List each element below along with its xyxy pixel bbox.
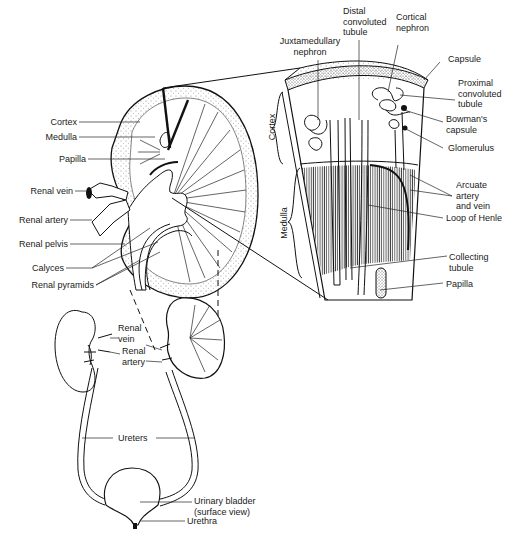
label-loop-of-henle: Loop of Henle bbox=[446, 213, 502, 224]
label-renal-vein-small: Renal vein bbox=[118, 323, 142, 344]
label-distal-line1: Distal bbox=[343, 6, 387, 17]
label-cortical-line2: nephron bbox=[396, 23, 429, 34]
label-renal-vein: Renal vein bbox=[0, 186, 73, 197]
label-urethra: Urethra bbox=[187, 516, 217, 527]
label-renal-artery: Renal artery bbox=[0, 215, 68, 226]
label-bladder-line1: Urinary bladder bbox=[194, 496, 256, 507]
label-collecting-tubule: Collecting tubule bbox=[449, 252, 489, 273]
label-papilla-wedge: Papilla bbox=[446, 279, 473, 290]
label-arcuate-line3: and vein bbox=[456, 201, 490, 212]
nephron-wedge bbox=[272, 61, 428, 300]
label-bowmans-line1: Bowman's bbox=[446, 114, 487, 125]
label-juxtamedullary-line1: Juxtamedullary bbox=[268, 36, 352, 47]
label-medulla-vertical: Medulla bbox=[279, 201, 289, 245]
label-glomerulus: Glomerulus bbox=[448, 143, 494, 154]
label-renal-artery-small: Renal artery bbox=[122, 346, 146, 367]
label-collecting-line2: tubule bbox=[449, 263, 489, 274]
label-renal-artery-line1: Renal bbox=[122, 346, 146, 357]
label-ureters: Ureters bbox=[118, 433, 148, 444]
label-calyces: Calyces bbox=[0, 263, 64, 274]
label-distal-line3: tubule bbox=[343, 27, 387, 38]
label-arcuate-line1: Arcuate bbox=[456, 180, 490, 191]
label-distal-convoluted-tubule: Distal convoluted tubule bbox=[343, 6, 387, 38]
label-proximal-line2: convoluted bbox=[458, 89, 502, 100]
kidney-cross-section bbox=[86, 86, 258, 298]
label-juxtamedullary-line2: nephron bbox=[268, 47, 352, 58]
label-renal-artery-line2: artery bbox=[122, 357, 146, 368]
label-papilla: Papilla bbox=[20, 154, 86, 165]
label-urinary-bladder: Urinary bladder (surface view) bbox=[194, 496, 256, 517]
label-renal-vein-line1: Renal bbox=[118, 323, 142, 334]
label-juxtamedullary-nephron: Juxtamedullary nephron bbox=[268, 36, 352, 57]
label-renal-vein-line2: vein bbox=[118, 334, 142, 345]
label-arcuate-line2: artery bbox=[456, 191, 490, 202]
label-arcuate-artery-vein: Arcuate artery and vein bbox=[456, 180, 490, 212]
label-distal-line2: convoluted bbox=[343, 17, 387, 28]
label-proximal-line1: Proximal bbox=[458, 78, 502, 89]
label-renal-pyramids: Renal pyramids bbox=[0, 280, 94, 291]
label-bowmans-capsule: Bowman's capsule bbox=[446, 114, 487, 135]
label-bowmans-line2: capsule bbox=[446, 125, 487, 136]
label-proximal-line3: tubule bbox=[458, 99, 502, 110]
label-cortex-vertical: Cortex bbox=[267, 107, 277, 147]
label-cortical-line1: Cortical bbox=[396, 12, 429, 23]
label-cortex: Cortex bbox=[20, 117, 77, 128]
kidney-anatomy-diagram bbox=[0, 0, 520, 539]
label-medulla: Medulla bbox=[20, 132, 77, 143]
label-capsule: Capsule bbox=[448, 54, 481, 65]
label-proximal-convoluted-tubule: Proximal convoluted tubule bbox=[458, 78, 502, 110]
label-renal-pelvis: Renal pelvis bbox=[0, 239, 68, 250]
label-collecting-line1: Collecting bbox=[449, 252, 489, 263]
label-cortical-nephron: Cortical nephron bbox=[396, 12, 429, 33]
